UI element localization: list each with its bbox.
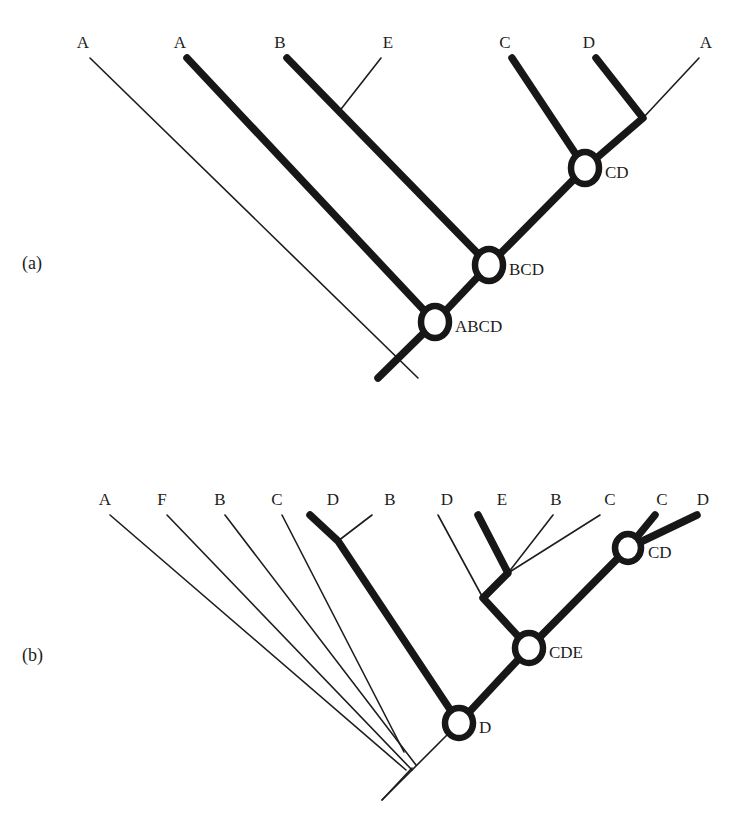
phylogenetic-trees-figure: A A B E C D A CD BCD ABCD (a): [0, 0, 731, 815]
leaf-label-b-8: B: [550, 490, 561, 509]
leaf-label-a-3: E: [383, 33, 393, 52]
branch-b-thin-9: [382, 768, 412, 800]
node-label-cde-b: CDE: [549, 643, 583, 662]
leaf-label-a-4: C: [499, 33, 510, 52]
branch-a-thick-4: [489, 168, 585, 265]
leaf-label-a-6: A: [700, 33, 713, 52]
branch-b-thin-1: [167, 515, 412, 770]
branch-a-thin-2: [643, 58, 699, 118]
node-d-b: [445, 708, 473, 738]
branch-a-thin-0: [90, 58, 418, 378]
branch-b-thick-4: [529, 548, 628, 648]
node-label-cd-a: CD: [605, 163, 629, 182]
branch-b-thin-7: [508, 515, 600, 573]
leaf-label-b-0: A: [99, 490, 112, 509]
panel-a: A A B E C D A CD BCD ABCD (a): [22, 33, 713, 378]
leaf-label-b-4: D: [327, 490, 339, 509]
node-cde-b: [515, 633, 543, 663]
node-cd-a: [571, 152, 599, 184]
leaf-label-b-10: C: [656, 490, 667, 509]
leaf-label-b-11: D: [697, 490, 709, 509]
leaf-label-b-3: C: [271, 490, 282, 509]
leaf-label-a-2: B: [274, 33, 285, 52]
tree-canvas: A A B E C D A CD BCD ABCD (a): [0, 0, 731, 815]
panel-a-thin-branches: [90, 58, 699, 378]
panel-b: A F B C D B D E B C C D CD CDE D (b): [22, 490, 709, 800]
panel-b-leaf-labels: A F B C D B D E B C C D: [99, 490, 709, 509]
node-label-abcd-a: ABCD: [455, 317, 502, 336]
branch-a-thick-2: [512, 58, 585, 168]
leaf-label-b-7: E: [497, 490, 507, 509]
leaf-label-b-5: B: [384, 490, 395, 509]
branch-b-thick-1: [478, 515, 529, 648]
panel-a-thick-branches: [187, 58, 643, 378]
leaf-label-a-1: A: [174, 33, 187, 52]
leaf-label-b-2: B: [214, 490, 225, 509]
node-cd-b: [615, 534, 641, 562]
branch-b-thin-5: [438, 515, 483, 598]
branch-b-thin-2: [225, 515, 416, 765]
node-label-cd-b: CD: [648, 543, 672, 562]
node-abcd-a: [421, 306, 449, 338]
node-label-bcd-a: BCD: [509, 260, 544, 279]
branch-a-thick-1: [287, 58, 489, 265]
branch-b-thick-0: [310, 515, 459, 723]
panel-label-b: (b): [22, 645, 43, 666]
panel-label-a: (a): [22, 253, 42, 274]
node-label-d-b: D: [479, 718, 491, 737]
branch-b-thin-6: [508, 515, 553, 573]
branch-a-thin-1: [338, 58, 381, 113]
leaf-label-b-1: F: [157, 490, 166, 509]
leaf-label-a-0: A: [77, 33, 90, 52]
leaf-label-b-9: C: [604, 490, 615, 509]
branch-b-thin-4: [338, 515, 372, 541]
panel-a-leaf-labels: A A B E C D A: [77, 33, 713, 52]
node-bcd-a: [475, 249, 503, 281]
leaf-label-b-6: D: [441, 490, 453, 509]
branch-b-thin-0: [110, 515, 406, 770]
leaf-label-a-5: D: [583, 33, 595, 52]
